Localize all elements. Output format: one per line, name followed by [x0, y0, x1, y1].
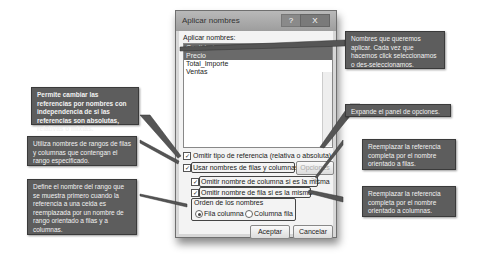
callout-use-names: Utiliza nombres de rangos de filas y col…	[27, 136, 137, 166]
callout-order: Define el nombre del rango que se muestr…	[27, 179, 137, 235]
callout-omit-column: Reemplazar la referencia completa por el…	[362, 186, 456, 217]
callout-omit-type: Permite cambiar las referencias por nomb…	[31, 87, 139, 125]
callout-options: Expande el panel de opciones.	[345, 104, 451, 117]
callout-names-list: Nombres que queremos aplicar. Cada vez q…	[345, 31, 445, 69]
callout-omit-row: Reemplazar la referencia completa por el…	[362, 139, 456, 170]
